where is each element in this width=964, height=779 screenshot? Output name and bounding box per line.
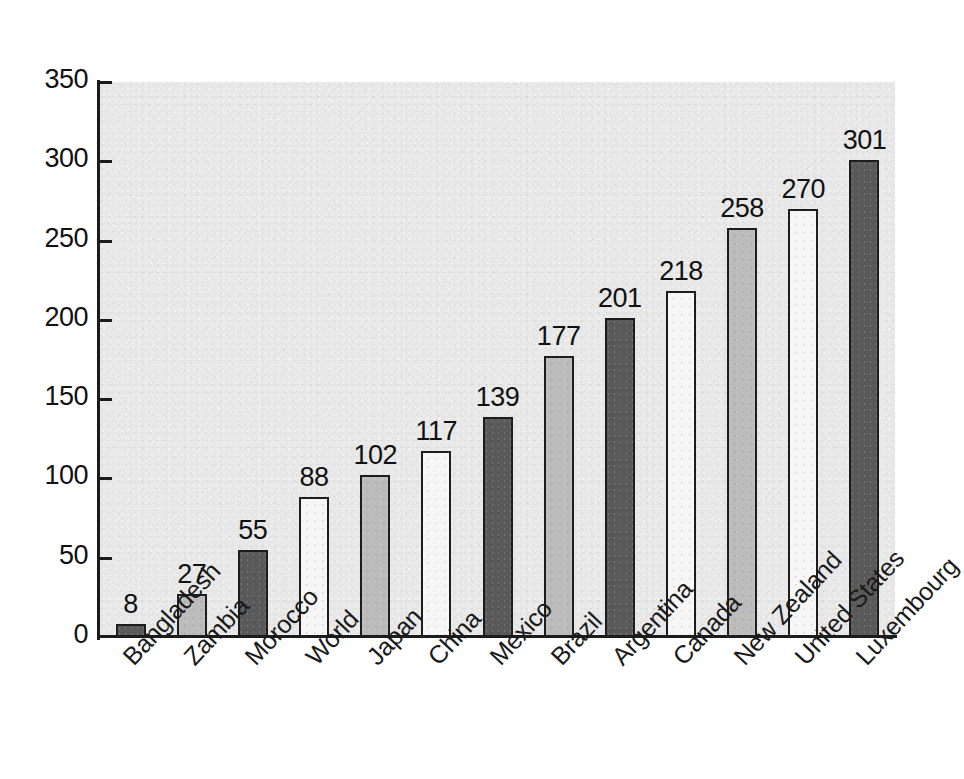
- bar-value-china: 117: [407, 416, 465, 447]
- y-axis-label-100: 100: [30, 460, 88, 491]
- bar-mexico: [483, 417, 513, 637]
- y-tick-250: [100, 240, 112, 243]
- y-tick-100: [100, 477, 112, 480]
- bar-value-brazil: 177: [530, 321, 588, 352]
- bar-value-new-zealand: 258: [713, 193, 771, 224]
- bar-value-canada: 218: [652, 256, 710, 287]
- bar-value-luxembourg: 301: [835, 125, 893, 156]
- bar-value-mexico: 139: [469, 382, 527, 413]
- bar-china: [421, 451, 451, 637]
- bar-texture: [729, 230, 755, 635]
- bar-value-argentina: 201: [591, 283, 649, 314]
- bar-new-zealand: [727, 228, 757, 637]
- bar-value-united-states: 270: [774, 174, 832, 205]
- y-axis-label-300: 300: [30, 143, 88, 174]
- bar-texture: [485, 419, 511, 635]
- bar-argentina: [605, 318, 635, 637]
- y-tick-150: [100, 398, 112, 401]
- bar-value-morocco: 55: [224, 515, 282, 546]
- bar-texture: [546, 358, 572, 635]
- y-axis-label-350: 350: [30, 64, 88, 95]
- bar-texture: [423, 453, 449, 635]
- y-axis-label-50: 50: [30, 540, 88, 571]
- y-axis-label-250: 250: [30, 223, 88, 254]
- y-tick-200: [100, 319, 112, 322]
- y-axis-label-group: 050100150200250300350: [0, 0, 88, 779]
- y-axis-label-200: 200: [30, 302, 88, 333]
- y-tick-350: [100, 81, 112, 84]
- bar-value-japan: 102: [346, 440, 404, 471]
- y-tick-300: [100, 160, 112, 163]
- y-axis-label-0: 0: [30, 619, 88, 650]
- bar-brazil: [544, 356, 574, 637]
- bar-japan: [360, 475, 390, 637]
- y-tick-50: [100, 557, 112, 560]
- bar-texture: [362, 477, 388, 635]
- bar-texture: [607, 320, 633, 635]
- y-axis-label-150: 150: [30, 381, 88, 412]
- bar-value-world: 88: [285, 462, 343, 493]
